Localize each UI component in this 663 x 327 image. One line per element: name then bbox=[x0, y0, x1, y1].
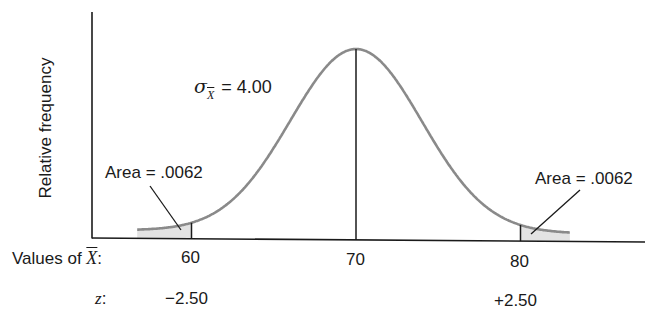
right-area-label: Area = .0062 bbox=[535, 170, 633, 187]
z-suffix: : bbox=[102, 289, 107, 308]
z-value-right: +2.50 bbox=[494, 292, 537, 309]
sigma-annotation: σX = 4.00 bbox=[194, 77, 272, 96]
x-tick-80: 80 bbox=[510, 253, 529, 270]
right-area-pointer bbox=[531, 190, 580, 234]
xbar-symbol: X bbox=[86, 248, 97, 268]
y-axis-label: Relative frequency bbox=[36, 58, 56, 199]
sigma-subscript: X bbox=[207, 88, 214, 102]
x-tick-60: 60 bbox=[181, 249, 200, 266]
z-symbol: z bbox=[95, 289, 102, 308]
values-suffix: : bbox=[97, 249, 102, 268]
left-area-label: Area = .0062 bbox=[105, 164, 203, 181]
values-prefix: Values of bbox=[12, 249, 86, 268]
sigma-value: = 4.00 bbox=[216, 77, 272, 97]
left-area-pointer bbox=[150, 186, 181, 230]
sampling-distribution-figure: Relative frequency σX = 4.00 Area = .006… bbox=[0, 0, 663, 327]
z-row-label: z: bbox=[95, 290, 106, 307]
sigma-symbol: σ bbox=[194, 75, 207, 97]
z-value-left: −2.50 bbox=[165, 290, 208, 307]
x-values-row-label: Values of X: bbox=[12, 249, 102, 267]
x-tick-70: 70 bbox=[346, 251, 365, 268]
plot-area bbox=[0, 0, 663, 327]
